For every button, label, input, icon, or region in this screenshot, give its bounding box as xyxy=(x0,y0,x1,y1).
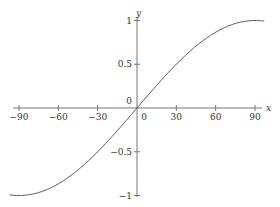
x-tick-label: −30 xyxy=(88,112,107,122)
y-tick-label: −0.5 xyxy=(110,147,132,157)
x-tick-label: 0 xyxy=(141,112,147,122)
y-tick-label: 0.5 xyxy=(118,59,133,69)
y-tick-label: −1 xyxy=(119,191,132,201)
x-axis-label: x xyxy=(266,103,271,113)
x-tick-label: −90 xyxy=(10,112,29,122)
x-tick-label: 60 xyxy=(210,112,222,122)
y-tick-label: 0 xyxy=(126,96,132,106)
y-axis-label: y xyxy=(135,8,142,18)
x-tick-label: 90 xyxy=(249,112,261,122)
x-tick-label: −60 xyxy=(49,112,68,122)
x-tick-label: 30 xyxy=(171,112,183,122)
sine-chart: −90−60−300306090 −1−0.500.51 x y xyxy=(0,0,280,207)
y-tick-label: 1 xyxy=(126,16,132,26)
